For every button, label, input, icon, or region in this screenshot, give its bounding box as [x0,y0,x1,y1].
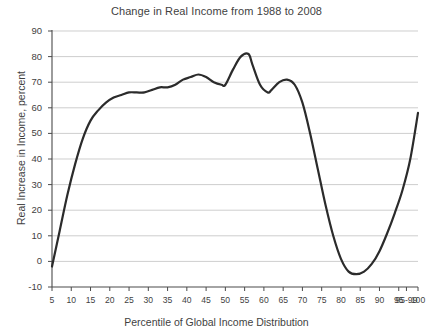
y-tick-label: 40 [16,153,42,164]
y-tick-label: 80 [16,51,42,62]
x-tick-label: 65 [278,295,288,305]
y-axis-ticks [48,31,52,287]
x-tick-label: 10 [66,295,76,305]
x-tick-label: 40 [182,295,192,305]
x-tick-label: 20 [105,295,115,305]
plot-area [0,0,433,336]
x-tick-label: 30 [144,295,154,305]
y-tick-label: 0 [16,255,42,266]
y-tick-label: 20 [16,204,42,215]
chart-figure: Change in Real Income from 1988 to 2008 … [0,0,433,336]
x-tick-label: 100 [411,295,425,305]
x-axis-ticks [52,287,418,291]
x-tick-label: 45 [201,295,211,305]
x-tick-label: 60 [259,295,269,305]
x-tick-label: 5 [50,295,55,305]
x-tick-label: 50 [221,295,231,305]
x-tick-label: 55 [240,295,250,305]
x-tick-label: 85 [355,295,365,305]
x-tick-label: 90 [375,295,385,305]
y-tick-label: 30 [16,179,42,190]
x-tick-label: 75 [317,295,327,305]
x-tick-label: 70 [298,295,308,305]
x-tick-label: 25 [124,295,134,305]
y-tick-label: 70 [16,76,42,87]
y-tick-label: 50 [16,127,42,138]
y-tick-label: 90 [16,25,42,36]
data-series-line [52,54,418,275]
x-tick-label: 80 [336,295,346,305]
x-tick-label: 35 [163,295,173,305]
x-tick-label: 15 [86,295,96,305]
y-tick-label: -10 [16,281,42,292]
y-tick-label: 60 [16,102,42,113]
y-tick-label: 10 [16,230,42,241]
